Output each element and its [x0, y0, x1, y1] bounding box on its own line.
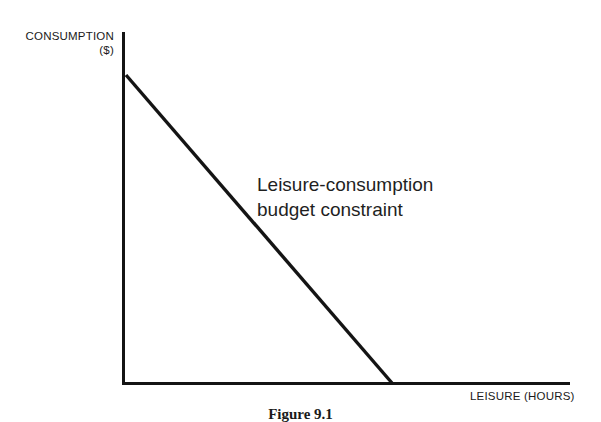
annotation-line-1: Leisure-consumption: [257, 172, 433, 197]
figure-container: CONSUMPTION ($) LEISURE (HOURS) Leisure-…: [0, 0, 601, 422]
annotation-line-2: budget constraint: [257, 197, 433, 222]
figure-caption: Figure 9.1: [0, 406, 601, 422]
y-axis-label-units: ($): [0, 43, 114, 57]
x-axis-label: LEISURE (HOURS): [470, 389, 575, 403]
budget-constraint-annotation: Leisure-consumption budget constraint: [257, 172, 433, 222]
y-axis-label-text: CONSUMPTION: [0, 29, 114, 43]
budget-constraint-line: [126, 75, 392, 383]
y-axis-label: CONSUMPTION ($): [0, 29, 114, 57]
